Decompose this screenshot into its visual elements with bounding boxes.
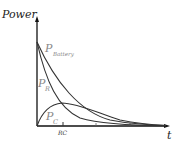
p-r-subscript: R bbox=[44, 85, 50, 93]
p-battery-label: P bbox=[44, 42, 53, 55]
power-vs-time-chart: Power t RC P Battery P R P C bbox=[0, 0, 179, 151]
p-battery-subscript: Battery bbox=[52, 51, 75, 58]
x-axis-label: t bbox=[167, 129, 172, 142]
p-c-subscript: C bbox=[53, 118, 58, 126]
y-axis-label: Power bbox=[1, 8, 38, 21]
rc-tick-label: RC bbox=[57, 129, 68, 136]
